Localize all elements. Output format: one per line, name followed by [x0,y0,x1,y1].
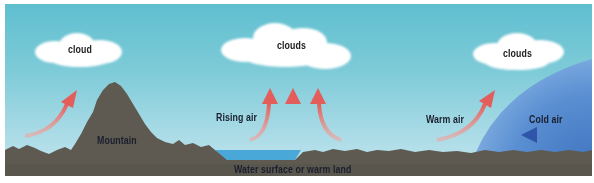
diagram-frame: cloud Mountain clouds Rising air Water s… [5,4,592,176]
cloud-label-left: cloud [68,44,92,55]
rising-air-arrows [250,88,341,144]
cold-air-label: Cold air [529,114,562,125]
orographic-arrow [25,90,77,136]
mountain-label: Mountain [97,135,137,146]
scene-graphics [5,4,592,176]
rising-air-label: Rising air [216,112,257,123]
warm-air-label: Warm air [426,114,464,125]
cloud-label-right: clouds [503,48,532,59]
surface-label: Water surface or warm land [234,164,351,175]
water-surface [215,150,301,160]
cloud-label-center: clouds [277,40,306,51]
